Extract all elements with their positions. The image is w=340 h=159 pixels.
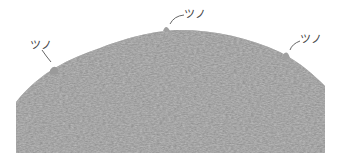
diagram-canvas: ツノ ツノ ツノ xyxy=(0,0,340,159)
horn-label-left: ツノ xyxy=(30,40,52,51)
horn-label-right: ツノ xyxy=(300,34,322,45)
horn-top xyxy=(163,27,170,31)
horn-left xyxy=(50,67,58,74)
leader-line-top xyxy=(170,15,184,24)
leader-line-right xyxy=(290,41,300,50)
horn-label-top: ツノ xyxy=(184,9,206,20)
knitted-dome-illustration xyxy=(0,0,340,159)
